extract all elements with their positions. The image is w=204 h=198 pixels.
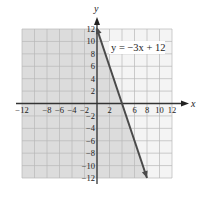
y-tick-label: 6: [91, 61, 95, 71]
x-tick-label: −12: [15, 105, 28, 115]
y-tick-label: −8: [86, 148, 95, 158]
x-tick-label: 8: [145, 105, 149, 115]
y-tick-label: 8: [91, 49, 95, 59]
inequality-graph: x y −12−8−6−4−2268101212108642−2−4−6−8−1…: [0, 0, 204, 198]
x-axis-arrow-icon: [181, 101, 189, 107]
x-tick-label: 2: [107, 105, 111, 115]
y-tick-label: 12: [87, 24, 96, 34]
x-tick-label: −8: [42, 105, 51, 115]
y-tick-label: −4: [86, 123, 96, 133]
x-tick-label: −4: [67, 105, 77, 115]
y-tick-label: 2: [91, 86, 95, 96]
x-tick-label: 12: [168, 105, 177, 115]
y-tick-label: −10: [82, 161, 95, 171]
x-axis-label: x: [190, 98, 196, 109]
x-tick-label: −6: [55, 105, 64, 115]
y-tick-label: 10: [87, 36, 96, 46]
y-tick-label: −12: [82, 173, 95, 183]
x-tick-label: 6: [132, 105, 136, 115]
y-tick-label: −2: [86, 111, 95, 121]
y-axis-label: y: [93, 3, 99, 14]
equation-label: y = −3x + 12: [111, 42, 166, 53]
y-tick-label: −6: [86, 136, 95, 146]
x-tick-label: 10: [155, 105, 164, 115]
